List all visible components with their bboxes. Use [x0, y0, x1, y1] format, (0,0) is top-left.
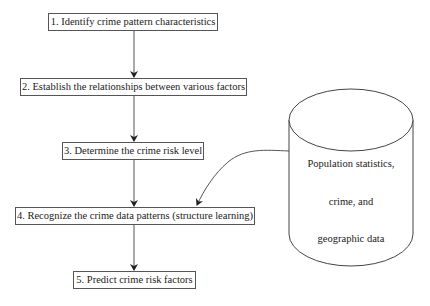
step-3-box: 3. Determine the crime risk level: [62, 142, 204, 160]
data-source-line-1: Population statistics,: [289, 158, 413, 169]
data-source-line-3: geographic data: [289, 233, 413, 244]
step-5-box: 5. Predict crime risk factors: [73, 271, 196, 289]
step-1-label: 1. Identify crime pattern characteristic…: [51, 16, 216, 27]
step-3-label: 3. Determine the crime risk level: [64, 145, 202, 156]
step-2-box: 2. Establish the relationships between v…: [20, 78, 247, 96]
step-4-label: 4. Recognize the crime data patterns (st…: [17, 210, 253, 221]
step-4-box: 4. Recognize the crime data patterns (st…: [15, 207, 255, 225]
step-5-label: 5. Predict crime risk factors: [76, 274, 192, 285]
step-2-label: 2. Establish the relationships between v…: [22, 81, 245, 92]
data-source-line-2: crime, and: [289, 196, 413, 207]
flowchart-canvas: 1. Identify crime pattern characteristic…: [0, 0, 430, 306]
step-1-box: 1. Identify crime pattern characteristic…: [48, 13, 218, 31]
arrow-datasource-to-4: [197, 150, 289, 205]
